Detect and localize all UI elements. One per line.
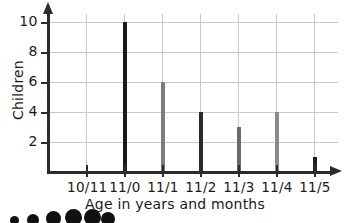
y-axis-title: Children	[10, 40, 26, 140]
y-axis-line	[47, 12, 50, 174]
page-bullet-blob	[101, 212, 115, 223]
x-axis-tick	[200, 165, 202, 177]
x-axis-tick-label: 10/11	[67, 179, 107, 195]
y-axis-tick	[41, 52, 48, 54]
x-axis-tick	[86, 165, 88, 177]
bar	[161, 82, 165, 172]
x-axis-tick	[314, 165, 316, 177]
x-axis-title: Age in years and months	[0, 196, 350, 212]
x-axis-line	[47, 171, 332, 174]
x-axis-tick	[276, 165, 278, 177]
y-axis-tick-label: 10	[8, 13, 38, 29]
x-axis-tick-label: 11/3	[219, 179, 259, 195]
y-axis-tick	[41, 82, 48, 84]
arrow-up-icon	[43, 2, 53, 14]
x-axis-tick-label: 11/1	[143, 179, 183, 195]
bar-chart-figure: 246810 10/1111/011/111/211/311/411/5 Chi…	[0, 0, 350, 223]
x-axis-tick	[238, 165, 240, 177]
x-axis-tick-label: 11/0	[105, 179, 145, 195]
y-axis-tick	[41, 142, 48, 144]
gridline-h	[48, 142, 338, 143]
page-bullet-blob	[65, 209, 82, 223]
y-axis-tick	[41, 22, 48, 24]
page-bullet-blob	[46, 211, 61, 223]
x-axis-tick-label: 11/4	[257, 179, 297, 195]
gridline-h	[48, 22, 338, 23]
gridline-v	[314, 14, 315, 172]
x-axis-tick	[162, 165, 164, 177]
bar	[199, 112, 203, 172]
arrow-right-icon	[330, 166, 342, 176]
gridline-v	[86, 14, 87, 172]
gridline-h	[48, 52, 338, 53]
x-axis-tick-label: 11/5	[295, 179, 335, 195]
plot-area	[48, 14, 338, 172]
page-bullet-blob	[27, 214, 39, 223]
x-axis-tick-label: 11/2	[181, 179, 221, 195]
gridline-h	[48, 82, 338, 83]
page-bullet-blob	[84, 209, 101, 223]
bar	[123, 22, 127, 172]
x-axis-tick	[124, 165, 126, 177]
bar	[275, 112, 279, 172]
page-bullet-blob	[10, 216, 19, 223]
gridline-h	[48, 112, 338, 113]
y-axis-tick	[41, 112, 48, 114]
